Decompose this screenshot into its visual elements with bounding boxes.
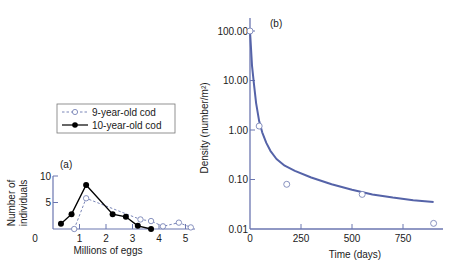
panel-a-ytick-label: 10 xyxy=(40,171,52,182)
panel-b-xtick-label: 250 xyxy=(293,233,310,244)
panel-a-label: (a) xyxy=(60,159,72,170)
panel-a-xlabel: Millions of eggs xyxy=(74,245,143,256)
panel-b-ytick-label: 100.00 xyxy=(217,26,248,37)
series-9-point xyxy=(160,224,165,229)
panel-a-ylabel-line2: individuals xyxy=(18,180,29,227)
series-9-point xyxy=(138,217,143,222)
observed-point xyxy=(256,123,262,129)
panel-a-axes: 510012345 xyxy=(32,171,195,245)
panel-a-xtick-label: 4 xyxy=(156,233,162,244)
panel-b-xlabel: Time (days) xyxy=(329,249,381,260)
legend: 9-year-old cod 10-year-old cod xyxy=(57,104,175,133)
observed-point xyxy=(284,181,290,187)
observed-point xyxy=(431,220,437,226)
panel-b-ytick-label: 0.10 xyxy=(229,174,249,185)
series-10-point xyxy=(123,214,129,220)
fitted-curve xyxy=(250,31,434,202)
legend-10-marker xyxy=(72,122,78,128)
observed-point xyxy=(359,191,365,197)
panel-a-ytick-label: 5 xyxy=(45,197,51,208)
series-9-point xyxy=(176,220,181,225)
panel-a-origin-label: 0 xyxy=(32,233,38,244)
panel-b-label: (b) xyxy=(270,18,282,29)
series-9-point xyxy=(188,225,193,230)
panel-b-xtick-label: 500 xyxy=(344,233,361,244)
panel-a-xtick-label: 2 xyxy=(103,233,109,244)
series-9-point xyxy=(148,218,153,223)
observed-point xyxy=(247,28,253,34)
panel-b-ytick-label: 1.00 xyxy=(229,125,249,136)
legend-9-label: 9-year-old cod xyxy=(92,107,156,118)
series-10-point xyxy=(148,226,154,232)
series-10-point xyxy=(58,221,64,227)
panel-a-xtick-label: 1 xyxy=(77,233,83,244)
legend-9-marker xyxy=(72,109,77,114)
series-10-point xyxy=(135,223,141,229)
series-10-point xyxy=(69,211,75,217)
panel-a-xtick-label: 5 xyxy=(183,233,189,244)
series-10-year-old-line xyxy=(61,185,151,229)
series-10-point xyxy=(110,211,116,217)
panel-b-xtick-label: 750 xyxy=(395,233,412,244)
series-9-point xyxy=(72,226,77,231)
panel-a-xtick-label: 3 xyxy=(130,233,136,244)
panel-b-ytick-label: 10.00 xyxy=(223,75,248,86)
figure: 9-year-old cod 10-year-old cod (a) Numbe… xyxy=(0,0,462,273)
panel-a-ylabel-line1: Number of xyxy=(6,179,17,226)
panel-b-ytick-label: 0.01 xyxy=(229,224,249,235)
panel-b-chart: (b) Density (number/m²) Time (days) 0.01… xyxy=(199,18,443,260)
panel-b-xtick-label: 0 xyxy=(247,233,253,244)
panel-b-ylabel: Density (number/m²) xyxy=(199,82,210,173)
legend-10-label: 10-year-old cod xyxy=(92,120,161,131)
panel-a-chart: (a) Number of individuals Millions of eg… xyxy=(6,159,195,256)
series-10-point xyxy=(83,182,89,188)
panel-b-series xyxy=(247,28,437,226)
series-9-point xyxy=(83,196,88,201)
panel-a-series xyxy=(58,182,194,232)
